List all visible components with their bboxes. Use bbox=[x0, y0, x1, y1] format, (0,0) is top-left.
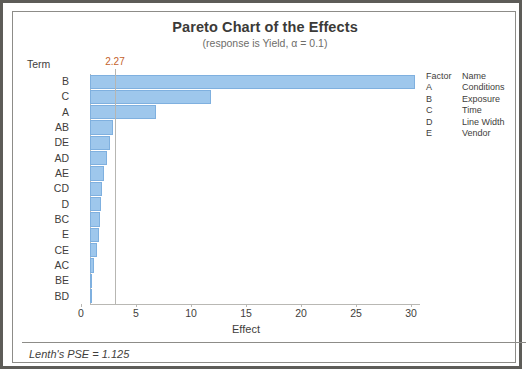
chart-subtitle: (response is Yield, α = 0.1) bbox=[13, 36, 517, 50]
chart-frame: Pareto Chart of the Effects (response is… bbox=[12, 11, 516, 363]
legend-header-row: Factor Name bbox=[426, 71, 505, 82]
y-axis-tick-labels: BCAABDEADAECDDBCECEACBEBD bbox=[13, 74, 69, 304]
bar-row bbox=[90, 151, 420, 166]
x-tick-mark-5 bbox=[136, 304, 137, 307]
legend-name: Vendor bbox=[462, 128, 491, 139]
bar-ab bbox=[90, 120, 113, 134]
bar-d bbox=[90, 197, 101, 211]
x-axis-tick-labels: 051015202530 bbox=[81, 307, 411, 321]
y-tick-ab: AB bbox=[55, 120, 69, 135]
bar-row bbox=[90, 273, 420, 288]
y-tick-ce: CE bbox=[54, 243, 69, 258]
bar-series bbox=[90, 74, 420, 304]
legend-rows: AConditionsBExposureCTimeDLine WidthEVen… bbox=[426, 82, 505, 139]
legend-name: Conditions bbox=[462, 82, 505, 93]
bar-row bbox=[90, 105, 420, 120]
y-axis-title: Term bbox=[27, 58, 50, 70]
legend-code: E bbox=[426, 128, 462, 139]
x-tick-mark-0 bbox=[81, 304, 82, 307]
bar-row bbox=[90, 258, 420, 273]
bar-de bbox=[90, 136, 110, 150]
y-tick-cd: CD bbox=[54, 181, 69, 196]
x-tick-mark-10 bbox=[191, 304, 192, 307]
y-tick-b: B bbox=[62, 74, 69, 89]
legend-name: Line Width bbox=[462, 117, 505, 128]
bar-row bbox=[90, 289, 420, 304]
legend-code: C bbox=[426, 105, 462, 116]
bar-ce bbox=[90, 243, 97, 257]
bar-row bbox=[90, 227, 420, 242]
bar-row bbox=[90, 243, 420, 258]
x-tick-mark-30 bbox=[411, 304, 412, 307]
x-tick-15: 15 bbox=[240, 307, 252, 319]
lenth-pse-note: Lenth's PSE = 1.125 bbox=[29, 348, 129, 360]
y-tick-ae: AE bbox=[55, 166, 69, 181]
plot-inner: 2.27 bbox=[81, 74, 411, 304]
bar-row bbox=[90, 181, 420, 196]
bar-row bbox=[90, 197, 420, 212]
y-tick-ad: AD bbox=[54, 151, 69, 166]
legend-row-d: DLine Width bbox=[426, 117, 505, 128]
bar-bc bbox=[90, 212, 100, 226]
bar-c bbox=[90, 90, 211, 104]
bar-row bbox=[90, 135, 420, 150]
x-tick-0: 0 bbox=[78, 307, 84, 319]
legend-code: A bbox=[426, 82, 462, 93]
y-tick-bd: BD bbox=[54, 289, 69, 304]
legend-code: D bbox=[426, 117, 462, 128]
bar-row bbox=[90, 166, 420, 181]
y-tick-a: A bbox=[62, 105, 69, 120]
legend-header-code: Factor bbox=[426, 71, 462, 82]
x-tick-5: 5 bbox=[133, 307, 139, 319]
y-tick-c: C bbox=[61, 89, 69, 104]
legend-name: Time bbox=[462, 105, 482, 116]
x-tick-mark-20 bbox=[301, 304, 302, 307]
x-tick-10: 10 bbox=[185, 307, 197, 319]
bar-e bbox=[90, 228, 99, 242]
x-tick-20: 20 bbox=[295, 307, 307, 319]
bar-row bbox=[90, 212, 420, 227]
plot-area: 2.27 bbox=[72, 74, 411, 304]
x-tick-mark-25 bbox=[356, 304, 357, 307]
legend-name: Exposure bbox=[462, 94, 500, 105]
footer-divider bbox=[22, 342, 526, 343]
bar-b bbox=[90, 75, 415, 89]
y-tick-bc: BC bbox=[54, 212, 69, 227]
x-tick-25: 25 bbox=[350, 307, 362, 319]
legend-row-b: BExposure bbox=[426, 94, 505, 105]
bar-bd bbox=[90, 289, 92, 303]
page-title: Pareto Chart of the Effects bbox=[13, 18, 517, 36]
y-tick-d: D bbox=[61, 197, 69, 212]
y-tick-e: E bbox=[62, 227, 69, 242]
x-axis-line bbox=[90, 304, 420, 305]
x-axis-title: Effect bbox=[81, 323, 411, 335]
y-tick-ac: AC bbox=[54, 258, 69, 273]
legend-row-c: CTime bbox=[426, 105, 505, 116]
legend-header-name: Name bbox=[462, 71, 486, 82]
bar-ac bbox=[90, 258, 94, 272]
legend-row-a: AConditions bbox=[426, 82, 505, 93]
y-tick-de: DE bbox=[54, 135, 69, 150]
legend-row-e: EVendor bbox=[426, 128, 505, 139]
bar-a bbox=[90, 105, 156, 119]
bar-ad bbox=[90, 151, 107, 165]
legend-code: B bbox=[426, 94, 462, 105]
x-tick-mark-15 bbox=[246, 304, 247, 307]
x-tick-30: 30 bbox=[405, 307, 417, 319]
bar-row bbox=[90, 89, 420, 104]
reference-line bbox=[115, 69, 116, 304]
y-tick-be: BE bbox=[55, 273, 69, 288]
bar-row bbox=[90, 120, 420, 135]
bar-cd bbox=[90, 182, 102, 196]
bar-row bbox=[90, 74, 420, 89]
factor-legend: Factor Name AConditionsBExposureCTimeDLi… bbox=[426, 71, 505, 139]
title-block: Pareto Chart of the Effects (response is… bbox=[13, 18, 517, 50]
bar-be bbox=[90, 274, 92, 288]
bar-ae bbox=[90, 166, 104, 180]
reference-line-label: 2.27 bbox=[105, 56, 124, 67]
